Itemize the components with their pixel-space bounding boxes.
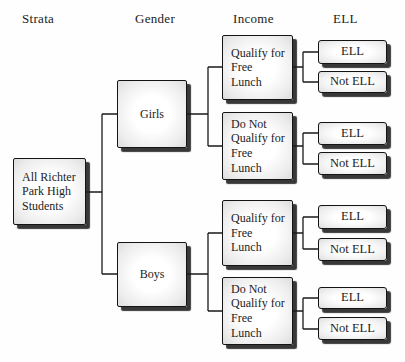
node-boys-qualify-ell: ELL: [318, 205, 387, 229]
node-label: Not ELL: [330, 321, 375, 336]
node-boys-not-qualify-not-ell: Not ELL: [318, 317, 387, 340]
connector-girls-qualify-to-ell: [291, 52, 320, 82]
node-label: Do Not Qualify for Free Lunch: [231, 282, 285, 341]
node-girls-not-qualify-not-ell: Not ELL: [318, 152, 387, 175]
connector-girls-to-income: [185, 67, 224, 146]
node-label: ELL: [341, 126, 364, 141]
node-label: Do Not Qualify for Free Lunch: [231, 117, 285, 176]
node-all-students: All Richter Park High Students: [13, 158, 86, 225]
node-label: Not ELL: [330, 156, 375, 171]
connector-girls-notqualify-to-ell: [291, 133, 320, 164]
connector-boys-notqualify-to-ell: [291, 298, 320, 329]
node-girls-not-qualify-free-lunch: Do Not Qualify for Free Lunch: [222, 112, 293, 180]
node-boys-not-qualify-free-lunch: Do Not Qualify for Free Lunch: [222, 277, 293, 345]
node-label: Girls: [140, 107, 164, 122]
node-girls-not-qualify-ell: ELL: [318, 122, 387, 145]
node-boys: Boys: [117, 242, 187, 307]
node-label: Not ELL: [330, 242, 375, 257]
tree-diagram: Strata Gender Income ELL All Richter Par…: [0, 0, 405, 362]
node-label: Qualify for Free Lunch: [231, 211, 285, 255]
node-girls: Girls: [117, 80, 187, 148]
node-label: ELL: [341, 44, 364, 59]
connector-boys-to-income: [185, 233, 224, 311]
node-label: ELL: [341, 290, 364, 305]
node-boys-qualify-free-lunch: Qualify for Free Lunch: [222, 200, 293, 266]
node-label: Qualify for Free Lunch: [231, 46, 285, 90]
node-label: All Richter Park High Students: [22, 170, 76, 214]
node-label: Boys: [140, 267, 165, 282]
node-girls-qualify-not-ell: Not ELL: [318, 71, 387, 93]
node-girls-qualify-ell: ELL: [318, 40, 387, 64]
node-girls-qualify-free-lunch: Qualify for Free Lunch: [222, 35, 293, 100]
connector-root-to-gender: [84, 114, 119, 274]
connector-boys-qualify-to-ell: [291, 217, 320, 249]
node-label: ELL: [341, 209, 364, 224]
node-label: Not ELL: [330, 74, 375, 89]
node-boys-qualify-not-ell: Not ELL: [318, 238, 387, 261]
node-boys-not-qualify-ell: ELL: [318, 287, 387, 309]
